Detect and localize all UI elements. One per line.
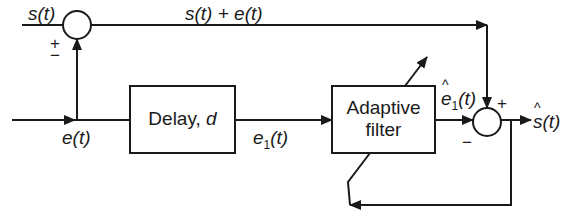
- top-summer-minus: −: [50, 47, 60, 64]
- adaptive-filter-label: Adaptive filter: [332, 97, 435, 141]
- label-e-input: e(t): [62, 128, 91, 147]
- diagram-canvas: [0, 0, 565, 218]
- label-e1: e1(t): [253, 128, 288, 151]
- bottom-summer-plus: +: [497, 95, 507, 112]
- adaptive-filter-line2: filter: [332, 119, 435, 141]
- label-sum-top: s(t) + e(t): [185, 4, 263, 23]
- feedback-diag-line: [348, 153, 370, 205]
- adaptation-arrow: [405, 57, 427, 86]
- delay-label: Delay, d: [130, 108, 235, 130]
- label-s-input: s(t): [28, 4, 55, 23]
- bottom-summer-minus: −: [462, 134, 472, 151]
- adaptive-filter-line1: Adaptive: [332, 97, 435, 119]
- label-e1-hat: e1(t): [441, 89, 476, 112]
- label-s-hat: s(t): [533, 112, 560, 131]
- top-summer: [63, 11, 91, 39]
